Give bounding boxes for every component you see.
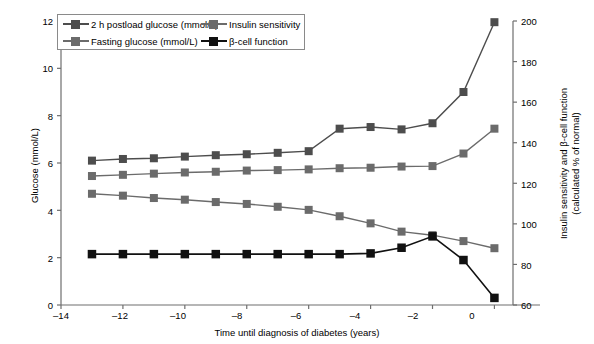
y-right-tick-180: 180: [521, 57, 551, 68]
data-point-marker: [490, 125, 498, 133]
legend-item-fasting-glucose[interactable]: Fasting glucose (mmol/L): [63, 33, 198, 49]
legend-item-insulin-sensitivity[interactable]: Insulin sensitivity: [201, 16, 300, 32]
y-axis-left-title: Glucose (mmol/L): [29, 86, 40, 246]
data-point-marker: [429, 162, 437, 170]
data-point-marker: [243, 250, 252, 259]
data-point-marker: [459, 150, 467, 158]
legend-label: β-cell function: [229, 36, 288, 47]
chart-plot-area: [0, 0, 594, 344]
data-point-marker: [274, 149, 282, 157]
tick-marks: [57, 21, 517, 309]
data-point-marker: [212, 250, 221, 259]
data-point-marker: [243, 167, 251, 175]
data-point-marker: [428, 232, 437, 241]
data-point-marker: [305, 206, 313, 214]
data-point-marker: [212, 198, 220, 206]
legend-marker-icon: [201, 18, 227, 30]
data-point-marker: [459, 256, 468, 265]
data-point-marker: [119, 250, 128, 259]
data-point-marker: [335, 250, 344, 259]
x-tick--2: –2: [398, 310, 428, 321]
data-point-marker: [88, 190, 96, 198]
legend-marker-icon: [201, 35, 227, 47]
y-right-tick-60: 60: [521, 300, 551, 311]
data-point-marker: [490, 18, 498, 26]
data-point-marker: [459, 88, 467, 96]
data-point-marker: [336, 212, 344, 220]
legend-marker-icon: [63, 18, 89, 30]
data-point-marker: [398, 163, 406, 171]
data-point-marker: [367, 219, 375, 227]
chart-legend: 2 h postload glucose (mmol/L) Insulin se…: [57, 14, 305, 50]
data-point-marker: [490, 294, 499, 303]
x-tick--8: –8: [222, 310, 252, 321]
axis-lines: [61, 21, 540, 305]
legend-label: Fasting glucose (mmol/L): [91, 36, 198, 47]
y-axis-right-title-line2: (calculated % of normal): [570, 79, 581, 249]
data-point-marker: [305, 165, 313, 173]
data-point-marker: [150, 250, 159, 259]
data-point-marker: [274, 203, 282, 211]
y-right-tick-140: 140: [521, 138, 551, 149]
x-axis-title: Time until diagnosis of diabetes (years): [0, 327, 594, 338]
data-point-marker: [243, 200, 251, 208]
data-point-marker: [274, 166, 282, 174]
data-point-marker: [181, 168, 189, 176]
legend-marker-icon: [63, 35, 89, 47]
legend-item-beta-cell-function[interactable]: β-cell function: [201, 33, 288, 49]
data-point-marker: [150, 154, 158, 162]
data-point-marker: [490, 244, 498, 252]
y-right-tick-80: 80: [521, 260, 551, 271]
data-point-marker: [150, 170, 158, 178]
legend-item-postload-glucose[interactable]: 2 h postload glucose (mmol/L): [63, 16, 218, 32]
data-point-marker: [305, 147, 313, 155]
legend-label: Insulin sensitivity: [229, 19, 300, 30]
data-point-marker: [88, 157, 96, 165]
y-left-tick-12: 12: [27, 16, 53, 27]
x-tick-0: 0: [457, 310, 487, 321]
data-point-marker: [88, 172, 96, 180]
data-point-marker: [459, 237, 467, 245]
data-point-marker: [304, 250, 313, 259]
y-left-tick-2: 2: [27, 253, 53, 264]
data-point-marker: [119, 155, 127, 163]
legend-label: 2 h postload glucose (mmol/L): [91, 19, 218, 30]
data-point-marker: [150, 194, 158, 202]
data-point-marker: [336, 125, 344, 133]
data-point-marker: [429, 119, 437, 127]
data-point-marker: [398, 228, 406, 236]
data-point-marker: [273, 250, 282, 259]
data-point-marker: [212, 151, 220, 159]
y-right-tick-200: 200: [521, 16, 551, 27]
y-right-tick-120: 120: [521, 179, 551, 190]
x-tick--10: –10: [163, 310, 193, 321]
series-line: [92, 236, 494, 298]
data-point-marker: [181, 196, 189, 204]
chart-container: 12 10 8 6 4 2 0 200 180 160 140 120 100 …: [0, 0, 594, 344]
data-point-marker: [366, 249, 375, 258]
series-layer: [88, 18, 499, 302]
data-point-marker: [212, 168, 220, 176]
data-point-marker: [367, 123, 375, 131]
y-right-tick-160: 160: [521, 97, 551, 108]
x-tick--4: –4: [340, 310, 370, 321]
x-tick--14: –14: [46, 310, 76, 321]
data-point-marker: [397, 243, 406, 252]
data-point-marker: [119, 171, 127, 179]
data-point-marker: [181, 250, 190, 259]
y-right-tick-100: 100: [521, 219, 551, 230]
data-point-marker: [367, 164, 375, 172]
data-point-marker: [336, 164, 344, 172]
data-point-marker: [398, 125, 406, 133]
data-point-marker: [181, 153, 189, 161]
x-tick--12: –12: [105, 310, 135, 321]
x-tick--6: –6: [281, 310, 311, 321]
y-axis-right-title-line1: Insulin sensitivity and β-cell function: [558, 79, 569, 249]
data-point-marker: [243, 150, 251, 158]
data-point-marker: [88, 250, 97, 259]
y-left-tick-10: 10: [27, 63, 53, 74]
data-point-marker: [119, 192, 127, 200]
